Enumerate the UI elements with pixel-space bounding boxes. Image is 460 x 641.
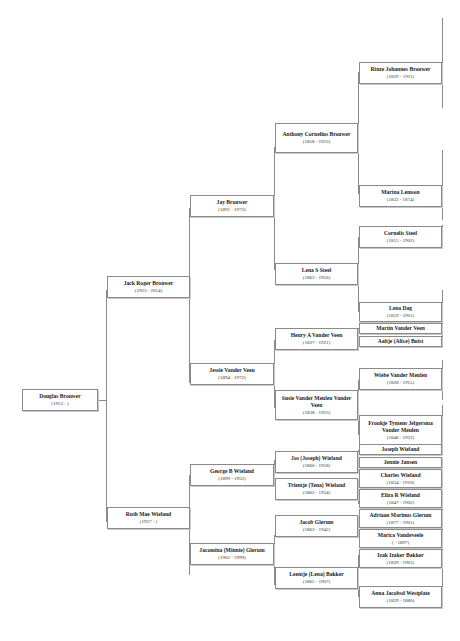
person-gen4-16[interactable]: Anna Jacobsd Westplate (1839 - 1880) xyxy=(359,586,442,608)
person-gen3-8[interactable]: Leentje (Lena) Bakker (1865 - 1907) xyxy=(275,567,358,589)
person-name: Ruth Mae Wieland xyxy=(110,511,187,518)
person-dates: (1834 - 1910) xyxy=(362,479,439,486)
person-dates: (1923 - 2014) xyxy=(110,287,187,294)
person-gen3-6[interactable]: Trientje (Tena) Wieland (1865 - 1924) xyxy=(275,478,358,500)
person-dates: (1838 - 1923) xyxy=(278,409,355,416)
person-dates: (1839 - 1903) xyxy=(362,559,439,566)
person-dates: (1902 - 1999) xyxy=(193,554,271,561)
person-gen4-13[interactable]: Adriaan Marinus Glerum (1877 - 1901) xyxy=(359,509,442,528)
person-dates: (1832 - 1874) xyxy=(362,196,439,203)
person-gen3-4[interactable]: Susie Vander Meulen Vander Veen (1838 - … xyxy=(275,390,358,420)
connector-gen5-f xyxy=(442,405,443,445)
person-dates: (1860 - 1918) xyxy=(278,462,355,469)
person-gen4-10[interactable]: Jennie Jansen xyxy=(359,457,442,468)
person-dates: (1877 - 1901) xyxy=(362,519,439,526)
person-dates: (1891 - 1973) xyxy=(193,206,271,213)
person-dates: (1847 - 1902) xyxy=(362,499,439,506)
person-name: Aaltje (Alice) Buist xyxy=(362,338,439,345)
person-gen4-12[interactable]: Eliza R Wieland (1847 - 1902) xyxy=(359,489,442,508)
person-dates: (1899 - 1952) xyxy=(193,475,271,482)
person-dates: (1839 - 1880) xyxy=(362,597,439,604)
person-name: Susie Vander Meulen Vander Veen xyxy=(278,395,355,409)
connector-gen3-a xyxy=(274,147,275,270)
person-name: Anna Jacobsd Westplate xyxy=(362,590,439,597)
person-name: Douglas Brouwer xyxy=(25,393,95,400)
person-gen4-3[interactable]: Cornelis Steel (1815 - 1902) xyxy=(359,226,442,248)
person-dates: (1848 - 1922) xyxy=(362,434,439,441)
person-gen4-11[interactable]: Charles Wieland (1834 - 1910) xyxy=(359,469,442,488)
person-father[interactable]: Jack Roger Brouwer (1923 - 2014) xyxy=(107,276,190,298)
person-gen4-6[interactable]: Aaltje (Alice) Buist xyxy=(359,336,442,347)
person-dates: (1815 - 1902) xyxy=(362,237,439,244)
connector-gen4-b xyxy=(358,237,359,312)
person-name: Martin Vander Veen xyxy=(362,325,439,332)
person-dates: (1863 - 1916) xyxy=(278,274,355,281)
person-dates: (1819 - 1901) xyxy=(362,312,439,319)
person-gen2-4[interactable]: Jacomina (Minnie) Glerum (1902 - 1999) xyxy=(190,543,274,565)
person-dates: ( - 1897) xyxy=(362,539,439,546)
person-name: Jessie Vander Veen xyxy=(193,367,271,374)
connector-root xyxy=(98,400,106,401)
person-gen4-1[interactable]: Rinze Johannes Brouwer (1829 - 1911) xyxy=(359,62,442,84)
person-name: Jacob Glerum xyxy=(278,519,355,526)
connector-gen5-e xyxy=(442,360,443,400)
person-dates: (1863 - 1942) xyxy=(278,526,355,533)
person-dates: (1927 - ) xyxy=(110,518,187,525)
person-dates: (1865 - 1924) xyxy=(278,489,355,496)
connector-gen5-g xyxy=(442,500,443,550)
person-root[interactable]: Douglas Brouwer (1953 - ) xyxy=(22,389,98,411)
person-gen4-7[interactable]: Wiebe Vander Meulen (1828 - 1915) xyxy=(359,368,442,390)
person-name: Joseph Wieland xyxy=(362,446,439,453)
connector-gen1 xyxy=(106,290,107,522)
person-gen2-2[interactable]: Jessie Vander Veen (1894 - 1972) xyxy=(190,363,274,385)
person-gen2-3[interactable]: George B Wieland (1899 - 1952) xyxy=(190,464,274,486)
person-gen3-2[interactable]: Lena S Steel (1863 - 1916) xyxy=(275,263,358,285)
connector-gen5-b xyxy=(442,150,443,220)
person-name: Rinze Johannes Brouwer xyxy=(362,66,439,73)
person-gen4-9[interactable]: Joseph Wieland xyxy=(359,444,442,455)
person-gen3-1[interactable]: Anthony Cornelius Brouwer (1858 - 1923) xyxy=(275,123,358,153)
person-gen4-2[interactable]: Marina Lemson (1832 - 1874) xyxy=(359,185,442,207)
person-name: Henry A Vander Veen xyxy=(278,332,355,339)
person-gen4-8[interactable]: Froukje Tymens Jelgersma Vander Meulen (… xyxy=(359,415,442,445)
person-name: Jennie Jansen xyxy=(362,459,439,466)
person-gen3-7[interactable]: Jacob Glerum (1863 - 1942) xyxy=(275,515,358,537)
person-dates: (1829 - 1911) xyxy=(362,73,439,80)
person-name: Leentje (Lena) Bakker xyxy=(278,571,355,578)
person-dates: (1894 - 1972) xyxy=(193,374,271,381)
connector-gen5-h xyxy=(442,555,443,605)
connector-gen4-a xyxy=(358,72,359,194)
person-gen4-15[interactable]: Izak Izaker Bakker (1839 - 1903) xyxy=(359,549,442,568)
person-dates: (1953 - ) xyxy=(25,400,95,407)
person-name: Jos (Joseph) Wieland xyxy=(278,455,355,462)
connector-gen5-d xyxy=(442,290,443,345)
person-gen2-1[interactable]: Jay Brouwer (1891 - 1973) xyxy=(190,195,274,217)
person-name: Adriaan Marinus Glerum xyxy=(362,512,439,519)
person-name: Izak Izaker Bakker xyxy=(362,552,439,559)
person-dates: (1858 - 1923) xyxy=(278,138,355,145)
person-name: Jay Brouwer xyxy=(193,199,271,206)
person-name: Wiebe Vander Meulen xyxy=(362,372,439,379)
person-gen4-5[interactable]: Martin Vander Veen xyxy=(359,323,442,334)
person-name: Marica Vandeveele xyxy=(362,532,439,539)
person-name: Marina Lemson xyxy=(362,189,439,196)
connector-gen5-c xyxy=(442,225,443,245)
person-name: Jack Roger Brouwer xyxy=(110,280,187,287)
person-gen3-5[interactable]: Jos (Joseph) Wieland (1860 - 1918) xyxy=(275,451,358,473)
person-name: Cornelis Steel xyxy=(362,230,439,237)
person-gen4-14[interactable]: Marica Vandeveele ( - 1897) xyxy=(359,529,442,548)
person-name: Anthony Cornelius Brouwer xyxy=(278,131,355,138)
person-mother[interactable]: Ruth Mae Wieland (1927 - ) xyxy=(107,507,190,529)
person-name: Lena S Steel xyxy=(278,267,355,274)
person-gen3-3[interactable]: Henry A Vander Veen (1837 - 1921) xyxy=(275,328,358,350)
person-name: Trientje (Tena) Wieland xyxy=(278,482,355,489)
person-dates: (1828 - 1915) xyxy=(362,379,439,386)
connector-gen5-a xyxy=(442,18,443,108)
person-name: Lena Dag xyxy=(362,305,439,312)
person-gen4-4[interactable]: Lena Dag (1819 - 1901) xyxy=(359,302,442,322)
person-name: Charles Wieland xyxy=(362,472,439,479)
person-name: Jacomina (Minnie) Glerum xyxy=(193,547,271,554)
person-name: George B Wieland xyxy=(193,468,271,475)
person-dates: (1865 - 1907) xyxy=(278,578,355,585)
person-dates: (1837 - 1921) xyxy=(278,339,355,346)
